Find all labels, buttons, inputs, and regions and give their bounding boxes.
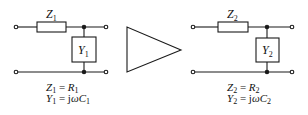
left-series-label: Z1 — [46, 7, 57, 23]
right-bottom-node — [265, 70, 268, 73]
right-series-label: Z2 — [227, 7, 238, 23]
left-input-top-terminal — [14, 25, 18, 29]
right-output-bottom-terminal — [290, 70, 294, 74]
right-series-resistor — [218, 22, 248, 32]
right-input-top-terminal — [191, 25, 195, 29]
left-series-resistor — [37, 22, 66, 32]
right-input-bottom-terminal — [191, 70, 195, 74]
left-input-bottom-terminal — [14, 70, 18, 74]
right-output-top-terminal — [290, 25, 294, 29]
circuit-diagram: Z1 Y1 Z1 = R1 Y1 = jωC1 Z2 Y2 Z2 = R2 Y2… — [0, 0, 308, 115]
right-network — [191, 22, 294, 74]
left-output-bottom-terminal — [104, 70, 108, 74]
transform-triangle-icon — [127, 27, 181, 72]
left-output-top-terminal — [104, 25, 108, 29]
left-bottom-node — [82, 70, 85, 73]
left-network — [14, 22, 108, 74]
